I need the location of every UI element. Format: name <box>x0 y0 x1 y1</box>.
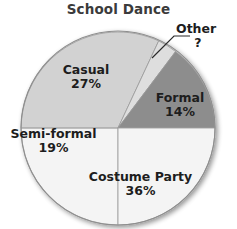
slice-label-formal: Formal 14% <box>142 91 218 119</box>
slice-label-costume-party-name: Costume Party <box>73 170 208 184</box>
slice-label-casual-value: 27% <box>40 77 132 91</box>
slice-label-formal-value: 14% <box>142 105 218 119</box>
slice-label-costume-party-value: 36% <box>73 184 208 198</box>
slice-label-casual-name: Casual <box>40 63 132 77</box>
slice-label-other-name: Other <box>176 22 236 36</box>
slice-label-costume-party: Costume Party 36% <box>73 170 208 198</box>
slice-label-casual: Casual 27% <box>40 63 132 91</box>
slice-label-semi-formal-name: Semi-formal <box>0 127 107 141</box>
pie-chart: School Dance <box>0 0 237 229</box>
slice-label-semi-formal: Semi-formal 19% <box>0 127 107 155</box>
slice-label-other-value: ? <box>176 36 220 50</box>
slice-label-other: Other ? <box>176 22 236 50</box>
slice-label-semi-formal-value: 19% <box>0 141 107 155</box>
slice-label-formal-name: Formal <box>142 91 218 105</box>
